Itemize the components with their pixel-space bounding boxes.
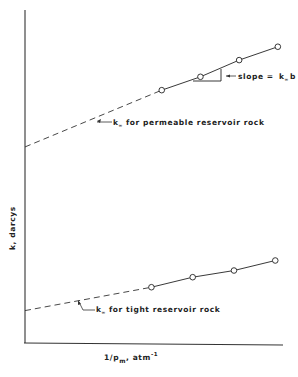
- permeable-data-point: [159, 87, 165, 93]
- slope-triangle-legs: [193, 69, 221, 81]
- permeable-sub: ∞: [119, 123, 123, 128]
- tight-data-point: [272, 258, 278, 264]
- permeable-text: for permeable reservoir rock: [126, 118, 265, 127]
- slope-triangle: [193, 69, 221, 81]
- x-label-main: 1/p: [104, 353, 119, 362]
- permeable-data-line: [162, 47, 278, 90]
- x-axis-label: 1/pm, atm-1: [104, 351, 158, 364]
- tight-leader-line: [79, 302, 95, 310]
- tight-data-point: [190, 274, 196, 280]
- tight-annotation: k∞for tight reservoir rock: [96, 305, 221, 315]
- tight-data-point: [149, 284, 155, 290]
- x-label-tail: , atm: [126, 353, 151, 362]
- tight-text: for tight reservoir rock: [109, 305, 221, 314]
- slope-arrowhead-icon: [226, 75, 230, 78]
- slope-label: slope = k∞b: [238, 72, 296, 82]
- x-axis: [24, 343, 283, 345]
- x-label-sub: m: [119, 357, 126, 364]
- x-label-sup: -1: [151, 351, 158, 357]
- permeable-data-point: [198, 74, 204, 80]
- slope-sub: ∞: [285, 77, 289, 82]
- slope-prefix: slope =: [238, 72, 277, 81]
- permeable-annotation: k∞for permeable reservoir rock: [113, 118, 265, 128]
- slope-suffix: b: [290, 72, 296, 81]
- tight-data-point: [231, 268, 237, 274]
- series-permeable: [25, 44, 281, 147]
- y-axis-label: k, darcys: [8, 206, 17, 250]
- permeable-data-point: [236, 57, 242, 63]
- tight-sub: ∞: [102, 310, 106, 315]
- chart: slope = k∞b k∞for permeable reservoir ro…: [0, 0, 298, 377]
- tight-data-line: [151, 261, 275, 288]
- permeable-data-point: [275, 44, 281, 50]
- series-tight: [25, 258, 278, 311]
